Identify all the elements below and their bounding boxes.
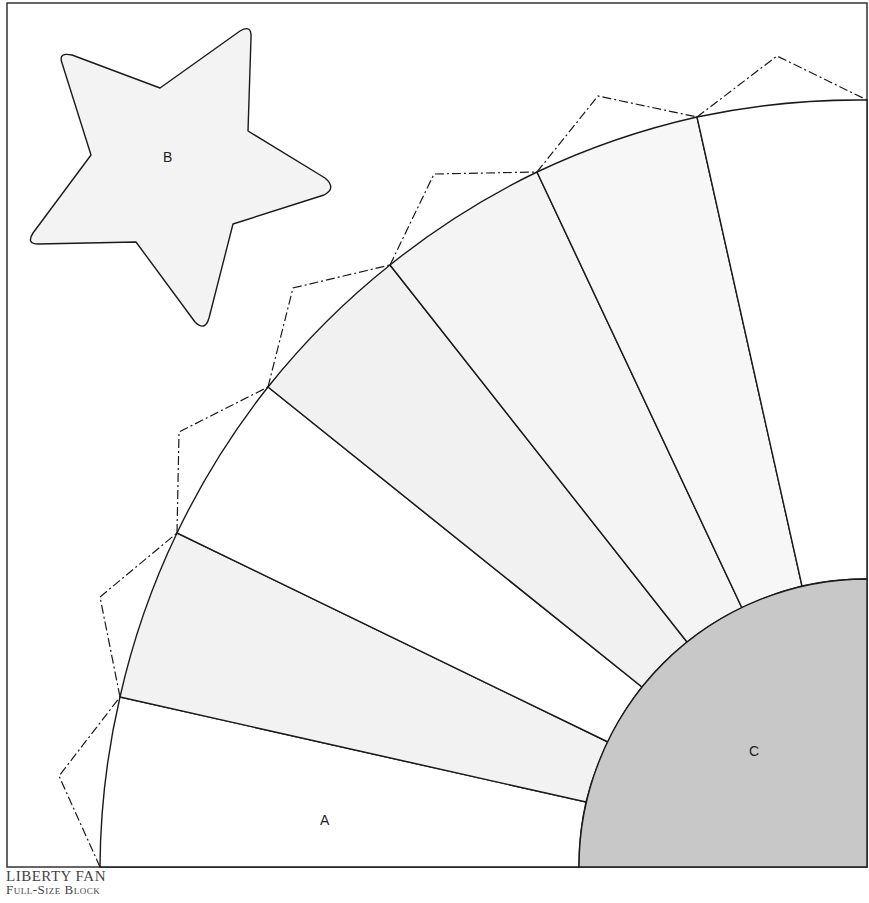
piece-label-a: A — [320, 812, 330, 828]
block-diagram: B A C — [0, 0, 869, 870]
piece-label-b: B — [163, 149, 172, 165]
block-title: LIBERTY FAN — [6, 869, 106, 883]
piece-label-c: C — [749, 743, 759, 759]
block-subtitle: Full-Size Block — [6, 883, 106, 897]
block-caption: LIBERTY FAN Full-Size Block — [6, 869, 106, 897]
